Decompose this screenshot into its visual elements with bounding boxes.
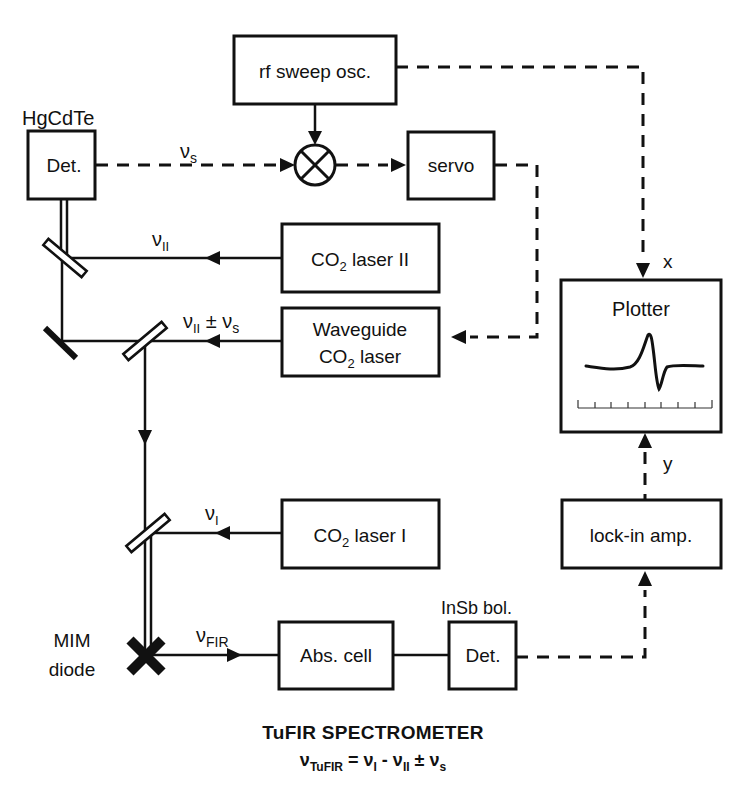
arrow-right-icon: [391, 158, 406, 172]
absorption-cell-block: Abs. cell: [279, 622, 393, 689]
arrow-right-icon: [280, 158, 295, 172]
rf-sweep-label: rf sweep osc.: [259, 61, 371, 82]
arrow-down-icon: [308, 131, 322, 145]
arrow-up-icon: [638, 433, 652, 448]
nu-ii-pm-nu-s-label: νII ± νs: [183, 310, 239, 336]
diagram-title: TuFIR SPECTROMETER: [0, 722, 746, 744]
arrow-down-icon: [636, 263, 650, 278]
y-input-label: y: [663, 453, 673, 474]
hgcdte-detector-block: Det.: [28, 131, 95, 199]
diagram-formula: νTuFIR = νI - νII ± νs: [0, 750, 746, 774]
mim-label: MIM: [54, 630, 91, 651]
insb-det-label: Det.: [466, 645, 501, 666]
plotter-block: Plotter: [561, 280, 721, 432]
waveguide-label-line1: Waveguide: [313, 319, 407, 340]
servo-label: servo: [428, 155, 474, 176]
waveguide-co2-laser-block: Waveguide CO2 laser: [282, 308, 439, 376]
mirror-icon: [45, 328, 76, 358]
rf-sweep-oscillator-block: rf sweep osc.: [234, 36, 396, 104]
x-input-label: x: [663, 251, 673, 272]
lock-in-label: lock-in amp.: [590, 525, 692, 546]
hgcdte-label: HgCdTe: [22, 107, 94, 129]
co2-laser-ii-block: CO2 laser II: [282, 224, 439, 292]
co2-laser-i-block: CO2 laser I: [282, 500, 439, 568]
insb-detector-block: Det.: [449, 622, 516, 689]
arrow-left-icon: [205, 251, 220, 265]
arrow-up-icon: [638, 571, 652, 586]
arrow-left-icon: [205, 334, 220, 348]
lock-in-amplifier-block: lock-in amp.: [562, 500, 721, 568]
arrow-down-icon: [138, 430, 152, 445]
diode-label: diode: [49, 659, 96, 680]
arrow-left-icon: [451, 330, 466, 344]
nu-s-label: νs: [180, 140, 197, 166]
hgcdte-det-label: Det.: [47, 155, 82, 176]
arrow-right-icon: [227, 648, 242, 662]
arrow-left-icon: [215, 526, 230, 540]
nu-i-label: νI: [205, 502, 219, 528]
servo-block: servo: [408, 132, 494, 199]
mixer-icon: [295, 145, 335, 185]
nu-ii-label: νII: [152, 228, 169, 254]
plotter-label: Plotter: [612, 298, 670, 320]
abs-cell-label: Abs. cell: [300, 645, 372, 666]
insb-bolometer-label: InSb bol.: [441, 598, 512, 618]
tufir-spectrometer-diagram: rf sweep osc. HgCdTe Det. servo CO2 lase…: [0, 0, 746, 791]
nu-fir-label: νFIR: [196, 624, 229, 650]
